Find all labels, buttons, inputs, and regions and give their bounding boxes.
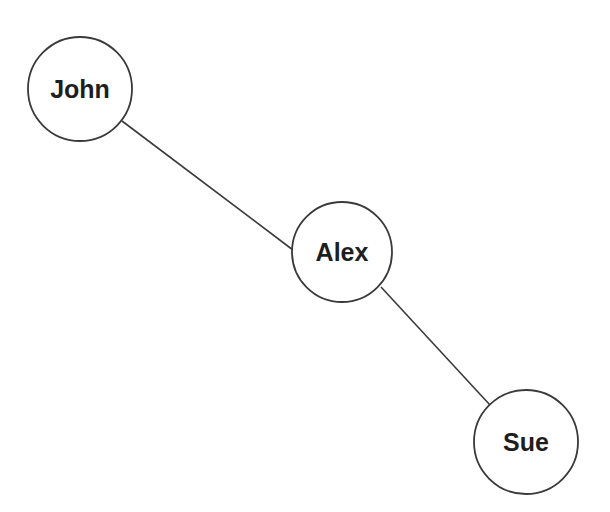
node-john-label: John <box>50 75 110 103</box>
nodes: John Alex Sue <box>28 37 578 494</box>
node-sue-label: Sue <box>503 428 549 456</box>
node-alex[interactable]: Alex <box>292 202 392 302</box>
graph-diagram: John Alex Sue <box>0 0 610 512</box>
node-john[interactable]: John <box>28 37 132 141</box>
edge-john-alex <box>122 121 293 250</box>
node-alex-label: Alex <box>316 238 369 266</box>
edge-alex-sue <box>381 287 490 405</box>
node-sue[interactable]: Sue <box>474 390 578 494</box>
